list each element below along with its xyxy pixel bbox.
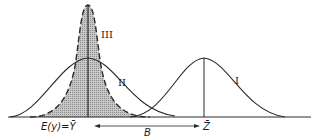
label-II: II (118, 77, 126, 88)
label-expected-y: E(y)=Ȳ (41, 120, 76, 132)
label-bias: B (144, 127, 151, 138)
label-I: I (235, 75, 239, 86)
curve-III-shaded-area (30, 5, 150, 117)
curve-I (130, 58, 285, 117)
arrow-right-head (194, 124, 200, 128)
sampling-distribution-diagram: III II I E(y)=Ȳ B Z̄ (0, 0, 311, 140)
arrow-left-head (94, 124, 100, 128)
label-z-bar: Z̄ (202, 120, 211, 132)
label-III: III (101, 29, 113, 40)
